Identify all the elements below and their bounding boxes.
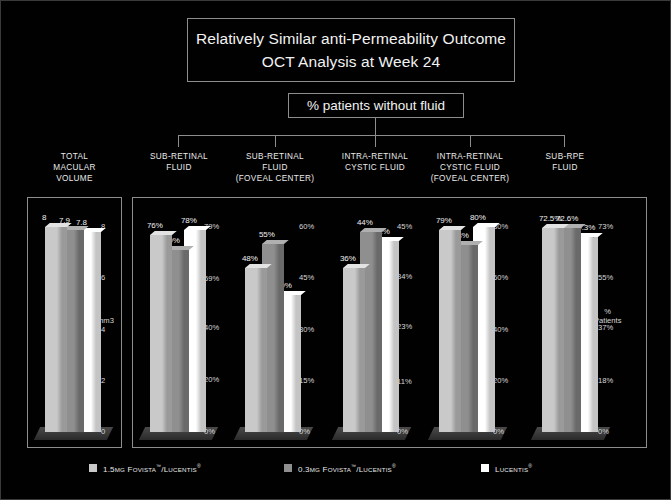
axis-tick-label: 11% [397, 377, 412, 386]
subtitle-box: % patients without fluid [288, 93, 464, 118]
title-box: Relatively Similar anti-Permeability Out… [187, 18, 515, 82]
column-header-line: FLUID [521, 162, 609, 173]
axis-tick-label: 40% [204, 323, 219, 332]
bar-side-face [456, 230, 461, 432]
chart-total-macular-volume: 87.97.886420mm3 [27, 197, 122, 448]
axis-tick-label: 60% [299, 222, 314, 231]
chart-sub-retinal-fluid: 76%70%78%79%59%40%20%0% [134, 197, 226, 448]
column-header-line: SUB-RETINAL [134, 151, 224, 162]
column-header-sub-retinal-fluid-foveal: SUB-RETINALFLUID(FOVEAL CENTER) [227, 151, 323, 184]
column-header-line: INTRA-RETINAL [327, 151, 423, 162]
chart-intra-retinal-cystic-fluid-foveal: 79%73%80%80%60%40%20%0% [423, 197, 517, 448]
bar-side-face [360, 268, 365, 432]
axis-tick-label: 15% [299, 376, 314, 385]
plot-area: 79%73%80%80%60%40%20%0% [423, 197, 517, 448]
bar-side-face [279, 244, 284, 432]
connector-stub-4 [470, 135, 471, 147]
bar-1 [45, 227, 62, 432]
legend-label: 1.5MG FOVISTA™/LUCENTIS® [103, 463, 201, 474]
column-header-line: FLUID [134, 162, 224, 173]
connector-stub-2 [275, 135, 276, 147]
axis-tick-label: 18% [598, 376, 613, 385]
legend-swatch-icon [284, 464, 292, 472]
column-header-line: (FOVEAL CENTER) [227, 173, 323, 184]
bar-side-face [296, 295, 301, 432]
chart-intra-retinal-cystic-fluid: 36%44%42%45%34%23%11%0% [327, 197, 421, 448]
bar-side-face [473, 245, 478, 432]
bar-value-label: 76% [147, 221, 163, 230]
axis-tick-label: 20% [493, 376, 508, 385]
axis-tick-label: 59% [204, 274, 219, 283]
bar-front-face [245, 268, 262, 432]
column-header-line: CYSTIC FLUID [327, 162, 423, 173]
subtitle-label: % patients without fluid [307, 98, 445, 113]
bar-1 [245, 268, 262, 432]
bar-front-face [150, 235, 167, 432]
column-header-total-macular-volume: TOTALMACULARVOLUME [27, 151, 122, 184]
legend-swatch-icon [481, 464, 489, 472]
bar-value-label: 44% [357, 218, 373, 227]
bar-value-label: 48% [242, 254, 258, 263]
bar-side-face [394, 241, 399, 432]
bar-side-face [167, 235, 172, 432]
axis-tick-label: 6 [101, 273, 105, 282]
legend: 1.5MG FOVISTA™/LUCENTIS® 0.3MG FOVISTA™/… [1, 463, 670, 483]
bar-value-label: 80% [470, 213, 486, 222]
column-header-intra-retinal-cystic-fluid: INTRA-RETINALCYSTIC FLUID [327, 151, 423, 173]
slide-root: Relatively Similar anti-Permeability Out… [0, 0, 671, 500]
axis-tick-label: 45% [299, 273, 314, 282]
axis-tick-label: 45% [397, 222, 412, 231]
column-header-line: SUB-RETINAL [227, 151, 323, 162]
column-header-line: CYSTIC FLUID [422, 162, 518, 173]
column-header-line: VOLUME [27, 173, 122, 184]
axis-tick-label: 30% [299, 325, 314, 334]
plot-area: 36%44%42%45%34%23%11%0% [327, 197, 421, 448]
bar-1 [150, 235, 167, 432]
legend-item-2[interactable]: 0.3MG FOVISTA™/LUCENTIS® [284, 463, 396, 474]
axis-tick-label: 40% [493, 325, 508, 334]
bar-value-label: 55% [259, 230, 275, 239]
bar-front-face [439, 230, 456, 432]
bar-top-face [184, 226, 211, 230]
axis-tick-label: 60% [493, 273, 508, 282]
title-line-1: Relatively Similar anti-Permeability Out… [196, 30, 506, 48]
bar-side-face [201, 230, 206, 432]
bar-side-face [96, 232, 101, 432]
bar-side-face [559, 228, 564, 432]
bar-front-face [45, 227, 62, 432]
legend-item-3[interactable]: LUCENTIS® [481, 463, 532, 474]
legend-label: LUCENTIS® [495, 463, 532, 474]
connector-horizontal-main [178, 135, 565, 136]
legend-label: 0.3MG FOVISTA™/LUCENTIS® [298, 463, 396, 474]
column-header-sub-rpe-fluid: SUB-RPEFLUID [521, 151, 609, 173]
axis-tick-label: 4 [101, 325, 105, 334]
bar-value-label: 79% [436, 216, 452, 225]
bar-front-face [542, 228, 559, 432]
axis-tick-label: 0 [101, 427, 105, 436]
connector-stub-5 [564, 135, 565, 147]
axis-tick-label: 23% [397, 322, 412, 331]
bar-1 [343, 268, 360, 432]
bar-side-face [62, 227, 67, 432]
column-header-intra-retinal-cystic-fluid-foveal: INTRA-RETINALCYSTIC FLUID(FOVEAL CENTER) [422, 151, 518, 184]
column-header-line: TOTAL [27, 151, 122, 162]
bar-top-face [262, 240, 289, 244]
bar-top-face [150, 231, 177, 235]
bar-side-face [377, 232, 382, 432]
bar-top-face [439, 226, 466, 230]
bar-side-face [593, 237, 598, 432]
legend-item-1[interactable]: 1.5MG FOVISTA™/LUCENTIS® [89, 463, 201, 474]
plot-area: 48%55%40%60%45%30%15%0% [229, 197, 323, 448]
plot-area: 76%70%78%79%59%40%20%0% [134, 197, 226, 448]
column-header-sub-retinal-fluid: SUB-RETINALFLUID [134, 151, 224, 173]
axis-tick-label: 20% [204, 375, 219, 384]
bar-value-label: 36% [340, 254, 356, 263]
bar-value-label: 8 [42, 213, 46, 222]
axis-unit-line: % [594, 307, 621, 316]
bar-1 [542, 228, 559, 432]
column-header-line: MACULAR [27, 162, 122, 173]
bar-value-label: 78% [181, 216, 197, 225]
plot-area: 72.5%72.6%69.3%73%55%37%18%0%%Patients [520, 197, 640, 448]
legend-swatch-icon [89, 464, 97, 472]
chart-sub-retinal-fluid-foveal: 48%55%40%60%45%30%15%0% [229, 197, 323, 448]
